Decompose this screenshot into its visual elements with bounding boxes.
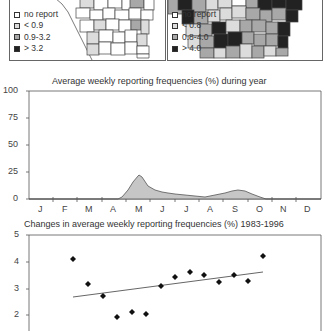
area-chart-plot bbox=[26, 91, 321, 202]
area-series bbox=[29, 175, 321, 199]
scatter-points bbox=[70, 253, 266, 320]
charts-canvas bbox=[0, 0, 329, 331]
scatter-chart-plot bbox=[26, 235, 321, 331]
